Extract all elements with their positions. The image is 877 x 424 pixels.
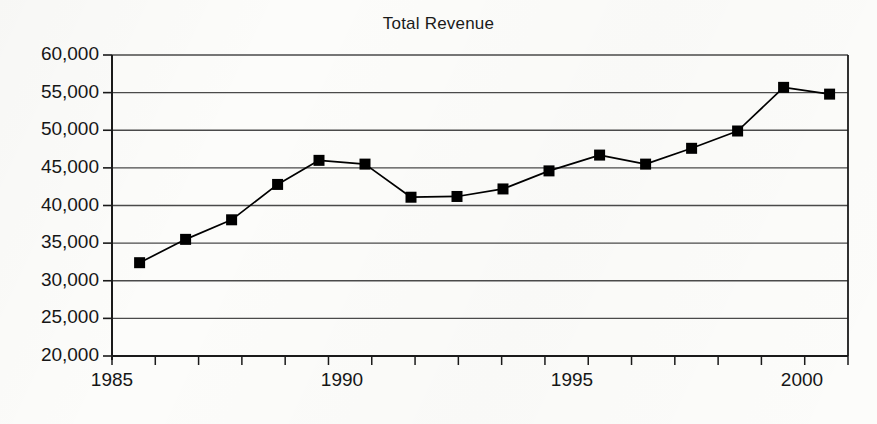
- x-axis-tick-label: 1990: [302, 369, 382, 391]
- y-axis-tick-label: 40,000: [41, 194, 99, 216]
- y-axis-ticks: [103, 55, 112, 356]
- data-point-marker: [778, 82, 789, 93]
- data-point-marker: [544, 165, 555, 176]
- data-point-marker: [226, 214, 237, 225]
- data-point-marker: [640, 159, 651, 170]
- y-axis-tick-label: 20,000: [41, 344, 99, 366]
- data-point-marker: [824, 89, 835, 100]
- data-series-line: [140, 87, 830, 262]
- y-axis-tick-label: 30,000: [41, 269, 99, 291]
- data-point-marker: [452, 191, 463, 202]
- x-axis-tick-label: 1995: [532, 369, 612, 391]
- y-axis-tick-label: 45,000: [41, 156, 99, 178]
- chart-screenshot: Total Revenue 20,00025,00030,00035,00040…: [0, 0, 877, 424]
- plot-area-svg: [0, 0, 877, 424]
- x-axis-minor-ticks: [112, 356, 848, 365]
- y-axis-tick-label: 25,000: [41, 306, 99, 328]
- data-point-markers: [134, 82, 835, 268]
- data-point-marker: [594, 150, 605, 161]
- y-axis-tick-label: 55,000: [41, 81, 99, 103]
- gridlines: [112, 55, 848, 318]
- data-point-marker: [686, 143, 697, 154]
- x-axis-tick-label: 1985: [72, 369, 152, 391]
- data-point-marker: [134, 257, 145, 268]
- data-point-marker: [180, 234, 191, 245]
- y-axis-tick-label: 35,000: [41, 231, 99, 253]
- y-axis-tick-label: 50,000: [41, 118, 99, 140]
- total-revenue-line-chart: Total Revenue 20,00025,00030,00035,00040…: [0, 0, 877, 424]
- data-point-marker: [314, 155, 325, 166]
- x-axis-tick-label: 2000: [762, 369, 842, 391]
- data-point-marker: [272, 179, 283, 190]
- data-point-marker: [498, 183, 509, 194]
- axis-frame: [112, 55, 848, 360]
- y-axis-tick-label: 60,000: [41, 43, 99, 65]
- data-point-marker: [406, 192, 417, 203]
- data-point-marker: [360, 159, 371, 170]
- data-point-marker: [732, 126, 743, 137]
